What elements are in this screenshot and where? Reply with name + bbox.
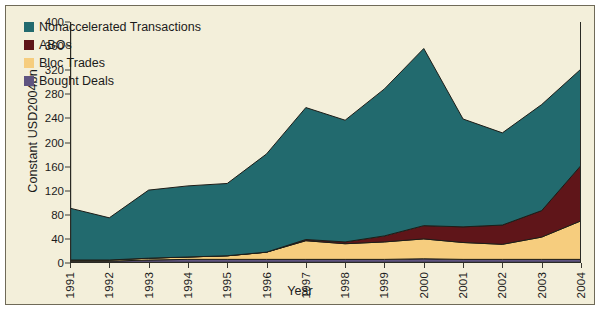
y-tick-mark [65,142,70,143]
chart-figure: Constant USD2004bn Year 0408012016020024… [0,0,600,314]
x-tick-mark [424,263,425,268]
x-tick-label: 1999 [378,272,390,298]
y-tick-label: 240 [45,112,64,124]
x-tick-mark [502,263,503,268]
x-tick-label: 2003 [536,272,548,298]
x-tick-label: 2004 [575,272,587,298]
x-tick-mark [188,263,189,268]
x-tick-label: 2000 [418,272,430,298]
legend-item: Bloc Trades [24,54,201,71]
x-tick-mark [306,263,307,268]
x-tick-label: 1998 [339,272,351,298]
y-tick-label: 160 [45,161,64,173]
y-tick-mark [65,214,70,215]
legend-item-label: Bloc Trades [39,56,105,70]
y-tick-label: 80 [51,209,64,221]
legend-swatch-icon [24,40,34,50]
x-tick-mark [384,263,385,268]
legend-swatch-icon [24,22,34,32]
legend-item: ABOs [24,36,201,53]
legend-swatch-icon [24,76,34,86]
y-tick-label: 0 [58,257,64,269]
x-tick-mark [267,263,268,268]
legend-swatch-icon [24,58,34,68]
y-tick-mark [65,238,70,239]
x-tick-mark [581,263,582,268]
legend-item: Bought Deals [24,72,201,89]
x-tick-label: 1995 [221,272,233,298]
x-tick-label: 1993 [143,272,155,298]
legend-item-label: ABOs [39,38,72,52]
x-tick-mark [542,263,543,268]
x-tick-mark [109,263,110,268]
y-tick-mark [65,94,70,95]
x-tick-label: 2002 [496,272,508,298]
y-tick-label: 200 [45,137,64,149]
y-tick-mark [65,190,70,191]
chart-panel: Constant USD2004bn Year 0408012016020024… [5,5,595,305]
y-tick-label: 280 [45,88,64,100]
legend-item: Nonaccelerated Transactions [24,18,201,35]
x-tick-mark [227,263,228,268]
x-tick-label: 1991 [64,272,76,298]
legend-item-label: Bought Deals [39,74,114,88]
y-tick-mark [65,118,70,119]
x-tick-mark [463,263,464,268]
y-tick-mark [65,166,70,167]
x-tick-mark [70,263,71,268]
y-tick-label: 120 [45,185,64,197]
x-tick-mark [345,263,346,268]
x-tick-label: 1992 [103,272,115,298]
legend-item-label: Nonaccelerated Transactions [39,20,201,34]
chart-legend: Nonaccelerated TransactionsABOsBloc Trad… [24,18,201,90]
x-tick-mark [149,263,150,268]
x-tick-label: 2001 [457,272,469,298]
y-tick-label: 40 [51,233,64,245]
x-tick-label: 1997 [300,272,312,298]
x-tick-label: 1996 [261,272,273,298]
x-tick-label: 1994 [182,272,194,298]
